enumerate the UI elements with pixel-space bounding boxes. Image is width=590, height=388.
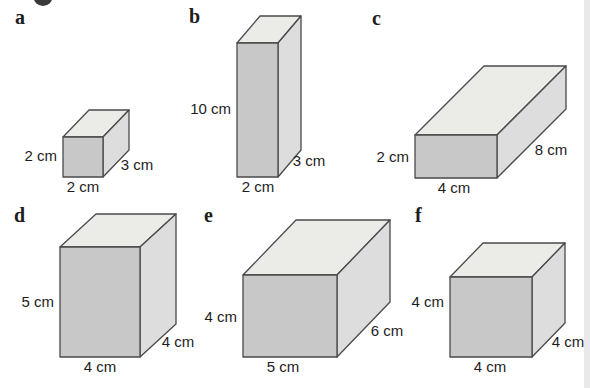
solid-c-width-label: 4 cm <box>438 179 471 196</box>
solid-e-width-label: 5 cm <box>267 358 300 375</box>
solid-b-height-label: 10 cm <box>190 100 231 117</box>
solid-f-front-face <box>450 277 532 357</box>
solid-a-letter: a <box>15 6 25 28</box>
solid-b-depth-label: 3 cm <box>293 152 326 169</box>
solid-f-width-label: 4 cm <box>474 358 507 375</box>
solid-d: d 5 cm 4 cm 4 cm <box>14 204 194 375</box>
solid-f: f 4 cm 4 cm 4 cm <box>411 204 584 375</box>
solid-a-height-label: 2 cm <box>24 147 57 164</box>
solid-c-height-label: 2 cm <box>376 148 409 165</box>
solid-b-letter: b <box>189 5 200 27</box>
worksheet-figure: a 2 cm 2 cm 3 cm b 10 cm 2 cm 3 cm c 2 c… <box>0 0 590 388</box>
solid-f-height-label: 4 cm <box>411 293 444 310</box>
solid-b-width-label: 2 cm <box>242 178 275 195</box>
solid-e-front-face <box>243 275 337 357</box>
solid-c: c 2 cm 4 cm 8 cm <box>372 7 567 196</box>
solid-c-front-face <box>415 135 497 178</box>
question-number-badge-icon <box>34 0 53 6</box>
cuboids-diagram: a 2 cm 2 cm 3 cm b 10 cm 2 cm 3 cm c 2 c… <box>0 0 590 388</box>
solid-d-height-label: 5 cm <box>21 293 54 310</box>
solid-a: a 2 cm 2 cm 3 cm <box>15 6 153 195</box>
page-edge-stripe <box>584 0 590 388</box>
solid-e-depth-label: 6 cm <box>371 322 404 339</box>
solid-d-letter: d <box>14 204 25 226</box>
solid-d-depth-label: 4 cm <box>162 333 195 350</box>
solid-b-front-face <box>237 43 278 177</box>
solid-e: e 4 cm 5 cm 6 cm <box>204 204 403 375</box>
solid-c-letter: c <box>372 7 381 29</box>
solid-e-letter: e <box>204 204 213 226</box>
solid-d-front-face <box>60 247 140 357</box>
solid-a-depth-label: 3 cm <box>121 156 154 173</box>
solid-d-width-label: 4 cm <box>84 358 117 375</box>
solid-a-front-face <box>63 137 103 177</box>
solid-c-depth-label: 8 cm <box>535 141 568 158</box>
solid-f-depth-label: 4 cm <box>552 333 585 350</box>
solid-e-height-label: 4 cm <box>204 308 237 325</box>
solid-b: b 10 cm 2 cm 3 cm <box>189 5 325 195</box>
solid-f-letter: f <box>415 204 422 226</box>
solid-a-width-label: 2 cm <box>67 178 100 195</box>
